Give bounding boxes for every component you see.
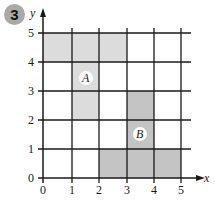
x-tick-4: 4 (151, 183, 157, 197)
x-axis-label: x (203, 171, 210, 185)
y-tick-0: 0 (28, 171, 34, 185)
x-tick-3: 3 (124, 183, 130, 197)
y-tick-3: 3 (28, 84, 34, 98)
coordinate-grid: y x 5 4 3 2 1 0 0 1 2 3 4 5 A B (0, 0, 215, 200)
x-tick-1: 1 (69, 183, 75, 197)
y-axis-label: y (29, 6, 36, 20)
x-tick-0: 0 (40, 183, 46, 197)
x-tick-2: 2 (96, 183, 102, 197)
shape-b-label: B (136, 127, 144, 141)
y-tick-5: 5 (28, 26, 34, 40)
shape-a-label: A (81, 71, 90, 85)
y-tick-2: 2 (28, 113, 34, 127)
y-tick-1: 1 (28, 142, 34, 156)
y-axis-arrow-icon (40, 8, 46, 17)
y-tick-4: 4 (28, 55, 34, 69)
x-tick-5: 5 (178, 183, 184, 197)
